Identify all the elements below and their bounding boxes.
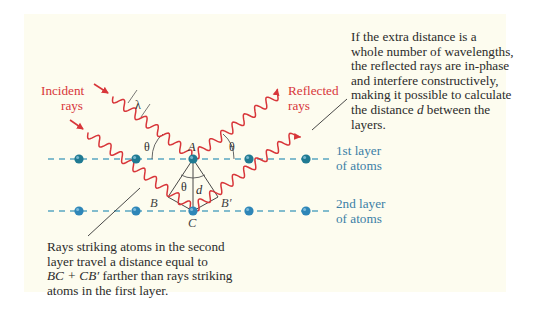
layer2-label: 2nd layer of atoms — [336, 197, 385, 226]
point-B-prime-label: B′ — [221, 196, 231, 211]
ray-wave — [193, 133, 300, 211]
atoms — [74, 154, 310, 215]
ray-wave — [193, 90, 278, 159]
incident-arrow-1 — [94, 84, 108, 93]
theta-label-reflected: θ — [229, 140, 235, 155]
annotation-extra-distance: If the extra distance is a whole number … — [351, 30, 541, 132]
atom — [244, 154, 253, 163]
wavelength-symbol: λ — [135, 98, 141, 113]
atom — [188, 206, 197, 215]
atom — [188, 154, 197, 163]
theta-label-incident: θ — [144, 140, 150, 155]
atom — [244, 206, 253, 215]
theta-label-inner: θ — [181, 180, 187, 195]
ray-wave — [88, 133, 191, 212]
atom — [74, 206, 83, 215]
atom — [131, 154, 140, 163]
construction-lines — [168, 159, 218, 211]
ray-wave — [113, 97, 192, 160]
point-C-label: C — [188, 216, 196, 231]
layer1-label: 1st layer of atoms — [336, 144, 382, 173]
point-B-label: B — [150, 196, 158, 211]
lambda-tick-2 — [141, 104, 150, 117]
reflected-rays-label: Reflected rays — [288, 84, 339, 113]
incident-rays-label: Incident rays — [41, 84, 83, 113]
annotation-path-difference: Rays striking atoms in the second layer … — [47, 240, 287, 298]
atom — [301, 154, 310, 163]
atom — [301, 206, 310, 215]
incident-arrow-2 — [70, 120, 83, 129]
theta-arc-incident — [152, 134, 163, 159]
atom — [74, 154, 83, 163]
distance-d-label: d — [196, 183, 202, 198]
point-A-label: A — [188, 140, 196, 155]
atom — [131, 206, 140, 215]
